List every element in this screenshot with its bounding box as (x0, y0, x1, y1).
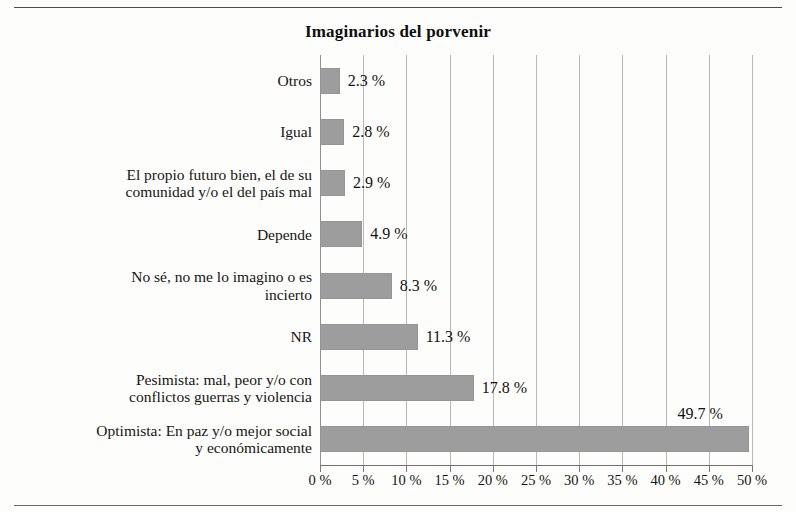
y-axis-label-line: Otros (22, 72, 312, 90)
x-tick-mark-50pct (752, 465, 753, 472)
y-axis-category-label: Pesimista: mal, peor y/o conconflictos g… (22, 371, 312, 406)
y-axis-category-label: Otros (22, 72, 312, 90)
y-axis-label-line: conflictos guerras y violencia (22, 388, 312, 406)
x-tick-mark-5pct (363, 465, 364, 472)
bar-value-label: 4.9 % (370, 221, 407, 247)
x-tick-mark-30pct (579, 465, 580, 472)
y-axis-category-label: NR (22, 328, 312, 346)
y-axis-label-line: incierto (22, 286, 312, 304)
x-tick-mark-45pct (709, 465, 710, 472)
y-axis-category-label: Optimista: En paz y/o mejor socialy econ… (22, 422, 312, 457)
x-tick-mark-10pct (406, 465, 407, 472)
bottom-divider-rule (14, 505, 782, 506)
bar[interactable] (320, 324, 418, 350)
x-tick-mark-35pct (622, 465, 623, 472)
x-tick-mark-40pct (666, 465, 667, 472)
x-tick-mark-25pct (536, 465, 537, 472)
bar-value-label: 8.3 % (400, 273, 437, 299)
y-axis-category-label: No sé, no me lo imagino o esincierto (22, 268, 312, 303)
bar-value-label: 2.8 % (352, 119, 389, 145)
bar[interactable] (320, 221, 362, 247)
y-axis-category-label: Depende (22, 226, 312, 244)
y-axis-label-line: Depende (22, 226, 312, 244)
y-axis-label-line: No sé, no me lo imagino o es (22, 268, 312, 286)
top-divider-rule (14, 7, 782, 8)
bar-value-label: 2.9 % (353, 170, 390, 196)
bar[interactable] (320, 426, 749, 452)
y-axis-label-line: Optimista: En paz y/o mejor social (22, 422, 312, 440)
y-axis-label-line: comunidad y/o el del país mal (22, 183, 312, 201)
bar-value-label: 11.3 % (426, 324, 471, 350)
y-axis-category-label: Igual (22, 123, 312, 141)
bar[interactable] (320, 119, 344, 145)
bar-row: 8.3 % (320, 260, 752, 311)
chart-title: Imaginarios del porvenir (0, 22, 796, 42)
y-axis-label-line: El propio futuro bien, el de su (22, 166, 312, 184)
bar[interactable] (320, 273, 392, 299)
bar-row: 2.9 % (320, 158, 752, 209)
y-axis-category-labels: OtrosIgualEl propio futuro bien, el de s… (0, 55, 320, 465)
y-axis-category-label: El propio futuro bien, el de sucomunidad… (22, 166, 312, 201)
bar-row: 2.3 % (320, 55, 752, 106)
bar-row: 2.8 % (320, 106, 752, 157)
y-axis-label-line: Igual (22, 123, 312, 141)
bar-row: 11.3 % (320, 311, 752, 362)
x-tick-label-50pct: 50 % (722, 472, 782, 489)
plot-area: 2.3 %2.8 %2.9 %4.9 %8.3 %11.3 %17.8 %49.… (320, 55, 752, 465)
x-tick-mark-0pct (320, 465, 321, 472)
chart-page: Imaginarios del porvenir OtrosIgualEl pr… (0, 0, 796, 512)
x-tick-mark-20pct (493, 465, 494, 472)
bar-row: 4.9 % (320, 209, 752, 260)
bar-row: 49.7 % (320, 414, 752, 465)
bar[interactable] (320, 68, 340, 94)
bar-value-label: 17.8 % (482, 375, 527, 401)
y-axis-label-line: NR (22, 328, 312, 346)
bar[interactable] (320, 170, 345, 196)
bar-value-label: 2.3 % (348, 68, 385, 94)
x-axis-tick-labels: 0 %5 %10 %15 %20 %25 %30 %35 %40 %45 %50… (0, 472, 796, 496)
y-axis-label-line: y económicamente (22, 439, 312, 457)
y-axis-label-line: Pesimista: mal, peor y/o con (22, 371, 312, 389)
x-tick-mark-15pct (450, 465, 451, 472)
bar[interactable] (320, 375, 474, 401)
bar-value-label: 49.7 % (677, 404, 722, 424)
gridline-50pct (752, 55, 753, 465)
